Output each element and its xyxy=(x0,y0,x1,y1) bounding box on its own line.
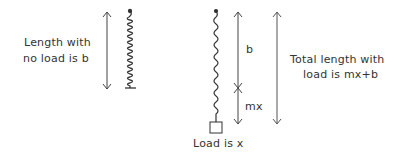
load-box xyxy=(210,122,222,133)
mx-segment-arrow xyxy=(234,88,242,124)
unloaded-length-label-line1: Length with xyxy=(24,36,91,50)
b-segment-label: b xyxy=(246,43,253,57)
unloaded-length-label-line2: no load is b xyxy=(23,52,89,66)
unloaded-length-arrow xyxy=(103,12,111,89)
mx-segment-label: mx xyxy=(245,100,263,114)
load-label: Load is x xyxy=(193,137,243,151)
b-segment-arrow xyxy=(234,12,242,88)
loaded-spring xyxy=(214,10,218,123)
total-length-label-line1: Total length with xyxy=(290,53,384,67)
total-length-label-line2: load is mx+b xyxy=(303,68,378,82)
unloaded-spring xyxy=(125,10,136,89)
total-length-arrow xyxy=(273,12,281,124)
